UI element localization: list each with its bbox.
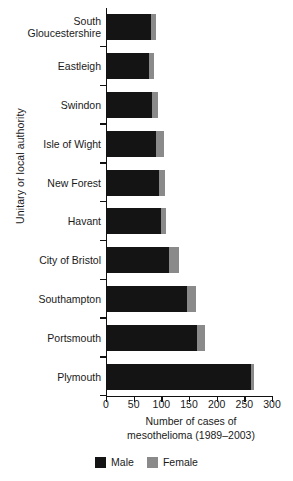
bar-segment-female: [187, 286, 196, 312]
category-label: Portsmouth: [0, 332, 101, 344]
x-axis-title: Number of cases of mesothelioma (1989–20…: [96, 415, 286, 442]
y-axis-tick: [100, 356, 106, 357]
mesothelioma-bar-chart: Unitary or local authority SouthGloucest…: [0, 0, 293, 481]
bar-segment-female: [159, 170, 165, 196]
bar-havant: [107, 208, 166, 234]
bar-segment-male: [107, 247, 169, 273]
bar-city-of-bristol: [107, 247, 179, 273]
y-axis-tick: [100, 240, 106, 241]
legend-item-male: Male: [95, 456, 134, 468]
x-axis-title-line-1: Number of cases of: [96, 415, 286, 429]
category-label-line: Gloucestershire: [0, 27, 101, 39]
chart-legend: Male Female: [0, 456, 293, 468]
y-axis-tick: [100, 123, 106, 124]
x-axis-title-line-2: mesothelioma (1989–2003): [96, 429, 286, 443]
bar-eastleigh: [107, 53, 154, 79]
bar-swindon: [107, 92, 158, 118]
x-axis-tick-label: 300: [257, 398, 287, 410]
category-label: Southampton: [0, 293, 101, 305]
y-axis-tick: [100, 85, 106, 86]
legend-item-female: Female: [147, 456, 198, 468]
bar-plymouth: [107, 364, 254, 390]
bar-segment-male: [107, 286, 187, 312]
bar-segment-male: [107, 92, 152, 118]
y-axis-tick: [100, 317, 106, 318]
legend-label-male: Male: [111, 456, 134, 468]
category-label: SouthGloucestershire: [0, 15, 101, 39]
bar-portsmouth: [107, 325, 205, 351]
bar-isle-of-wight: [107, 131, 164, 157]
bar-south-gloucestershire: [107, 14, 156, 40]
bar-new-forest: [107, 170, 165, 196]
plot-area: [106, 8, 272, 396]
x-axis-tick-label: 100: [146, 398, 176, 410]
bar-segment-male: [107, 170, 159, 196]
x-axis-tick-label: 0: [91, 398, 121, 410]
bar-southampton: [107, 286, 196, 312]
category-label: Eastleigh: [0, 60, 101, 72]
bar-segment-female: [151, 14, 156, 40]
y-axis-tick: [100, 201, 106, 202]
bar-segment-male: [107, 14, 151, 40]
y-axis-title: Unitary or local authority: [14, 86, 26, 246]
x-axis-tick-label: 200: [202, 398, 232, 410]
bar-segment-female: [156, 131, 164, 157]
y-axis-tick: [100, 279, 106, 280]
bar-segment-female: [161, 208, 167, 234]
bar-segment-female: [152, 92, 158, 118]
bar-segment-female: [251, 364, 254, 390]
legend-swatch-female-icon: [147, 457, 158, 468]
bar-segment-male: [107, 208, 161, 234]
bar-segment-female: [149, 53, 154, 79]
category-label-line: South: [0, 15, 101, 27]
category-label: City of Bristol: [0, 254, 101, 266]
x-axis-tick-label: 150: [174, 398, 204, 410]
bar-segment-female: [197, 325, 205, 351]
x-axis-tick-label: 250: [229, 398, 259, 410]
bar-segment-male: [107, 325, 197, 351]
bar-segment-male: [107, 131, 156, 157]
legend-swatch-male-icon: [95, 457, 106, 468]
x-axis-tick-label: 50: [119, 398, 149, 410]
bar-segment-male: [107, 53, 149, 79]
y-axis-tick: [100, 46, 106, 47]
bar-segment-female: [169, 247, 179, 273]
legend-label-female: Female: [163, 456, 198, 468]
category-label: Plymouth: [0, 371, 101, 383]
bar-segment-male: [107, 364, 251, 390]
y-axis-tick: [100, 162, 106, 163]
